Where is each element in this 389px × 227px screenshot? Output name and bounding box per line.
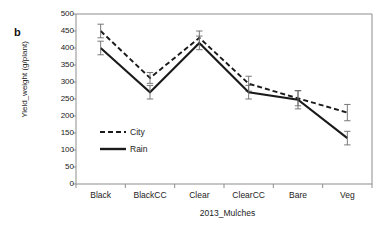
y-tick-label: 0 xyxy=(48,180,74,188)
x-tick-label-blackcc: BlackCC xyxy=(133,190,166,200)
y-axis-tick-labels: 050100150200250300350400450500 xyxy=(44,0,74,227)
y-tick-label: 150 xyxy=(48,129,74,137)
x-tick-label-clear: Clear xyxy=(189,190,209,200)
y-tick-label: 50 xyxy=(48,163,74,171)
y-tick-label: 500 xyxy=(48,10,74,18)
x-tick-label-clearcc: ClearCC xyxy=(232,190,265,200)
axis-ticks xyxy=(73,14,372,188)
error-bar xyxy=(196,36,202,50)
error-bar xyxy=(147,85,153,99)
error-bar xyxy=(97,24,103,38)
figure-panel-b: b Yield_weight (g/plant) 050100150200250… xyxy=(0,0,389,227)
error-bar xyxy=(97,41,103,55)
x-tick-label-bare: Bare xyxy=(289,190,307,200)
y-tick-label: 250 xyxy=(48,95,74,103)
y-tick-label: 450 xyxy=(48,27,74,35)
x-tick-label-black: Black xyxy=(90,190,111,200)
x-axis-label: 2013_Mulches xyxy=(75,208,380,218)
y-tick-label: 400 xyxy=(48,44,74,52)
axes xyxy=(76,14,372,184)
chart-legend: CityRain xyxy=(100,127,148,154)
y-tick-label: 100 xyxy=(48,146,74,154)
legend-label-city: City xyxy=(130,127,145,137)
y-tick-label: 300 xyxy=(48,78,74,86)
y-tick-label: 350 xyxy=(48,61,74,69)
x-tick-label-veg: Veg xyxy=(340,190,355,200)
y-tick-label: 200 xyxy=(48,112,74,120)
error-bar xyxy=(344,131,350,145)
legend-label-rain: Rain xyxy=(130,144,148,154)
error-bar xyxy=(147,72,153,83)
series-city xyxy=(97,24,350,121)
y-axis-label: Yield_weight (g/plant) xyxy=(20,10,29,150)
